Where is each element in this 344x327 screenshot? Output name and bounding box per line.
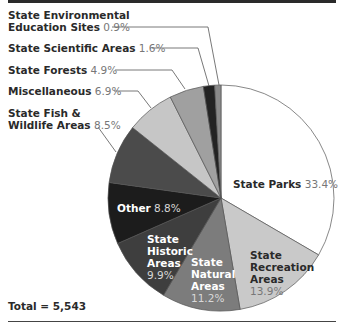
- label-historic: State Historic Areas 9.9%: [147, 233, 193, 281]
- label-parks-name: State Parks: [233, 178, 301, 190]
- total-label: Total = 5,543: [8, 300, 86, 312]
- label-historic-line1: State: [147, 233, 179, 245]
- label-natural-line1: State: [191, 256, 223, 268]
- label-forests: State Forests 4.9%: [8, 64, 117, 76]
- leader-line-env-ed: [112, 27, 219, 85]
- label-env-ed-line2: Education Sites: [8, 21, 100, 33]
- label-recreation-pct: 13.9%: [250, 285, 283, 297]
- label-other-name: Other: [117, 202, 151, 214]
- label-historic-line3: Areas: [147, 257, 181, 269]
- label-other-pct: 8.8%: [154, 202, 181, 214]
- label-fish-line2: Wildlife Areas: [8, 119, 91, 131]
- label-natural: State Natural Areas 11.2%: [191, 256, 235, 304]
- label-misc-name: Miscellaneous: [8, 85, 91, 97]
- label-historic-pct: 9.9%: [147, 269, 174, 281]
- label-env-ed-line1: State Environmental: [8, 9, 130, 21]
- label-recreation: State Recreation Areas 13.9%: [250, 249, 314, 297]
- label-fish-wildlife: State Fish & Wildlife Areas 8.5%: [8, 107, 121, 131]
- leader-line-forests: [115, 70, 185, 89]
- label-fish-pct: 8.5%: [94, 119, 121, 131]
- bottom-rule: [8, 321, 336, 322]
- label-parks: State Parks 33.4%: [233, 178, 338, 190]
- label-misc: Miscellaneous 6.9%: [8, 85, 122, 97]
- label-natural-pct: 11.2%: [191, 292, 224, 304]
- label-env-ed-pct: 0.9%: [103, 21, 130, 33]
- label-recreation-line1: State: [250, 249, 282, 261]
- label-scientific: State Scientific Areas 1.6%: [8, 42, 166, 54]
- label-recreation-line3: Areas: [250, 273, 284, 285]
- label-scientific-pct: 1.6%: [139, 42, 166, 54]
- label-fish-line1: State Fish &: [8, 107, 81, 119]
- label-forests-pct: 4.9%: [91, 64, 118, 76]
- label-parks-pct: 33.4%: [305, 178, 338, 190]
- label-natural-line3: Areas: [191, 280, 225, 292]
- label-scientific-name: State Scientific Areas: [8, 42, 136, 54]
- label-other: Other 8.8%: [117, 202, 181, 214]
- label-misc-pct: 6.9%: [95, 85, 122, 97]
- label-forests-name: State Forests: [8, 64, 87, 76]
- label-env-ed: State Environmental Education Sites 0.9%: [8, 9, 130, 33]
- label-historic-line2: Historic: [147, 245, 193, 257]
- label-recreation-line2: Recreation: [250, 261, 314, 273]
- label-natural-line2: Natural: [191, 268, 235, 280]
